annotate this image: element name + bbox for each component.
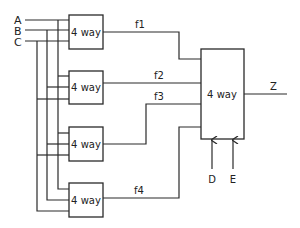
mux5-label: 4 way	[207, 89, 237, 100]
mux5: 4 way	[201, 49, 244, 139]
output-label-z: Z	[270, 81, 277, 92]
mux3: 4 way	[69, 127, 103, 161]
mux4-label: 4 way	[71, 195, 101, 206]
bus-c	[37, 41, 69, 211]
signal-f4-label: f4	[134, 185, 144, 196]
mux3-label: 4 way	[71, 139, 101, 150]
mux4: 4 way	[69, 183, 103, 217]
select-label-e: E	[230, 174, 236, 185]
bus-a	[58, 20, 69, 189]
mux2-label: 4 way	[71, 82, 101, 93]
mux1-label: 4 way	[71, 27, 101, 38]
signal-f3-label: f3	[154, 91, 164, 102]
signal-f1-label: f1	[135, 19, 145, 30]
select-label-d: D	[208, 174, 216, 185]
mux2: 4 way	[69, 71, 103, 104]
mux1: 4 way	[69, 15, 103, 49]
input-buses	[37, 20, 69, 211]
signal-f1	[103, 32, 201, 59]
signal-f4	[103, 127, 201, 198]
signal-f2-label: f2	[154, 70, 164, 81]
input-label-c: C	[14, 36, 22, 49]
mux-tree-diagram: A B C 4 way 4 way 4 way 4 way	[0, 0, 300, 228]
signal-f3	[103, 104, 201, 144]
